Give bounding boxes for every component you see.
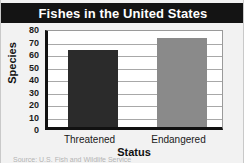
y-tick-label: 0 xyxy=(34,126,39,135)
bar-endangered xyxy=(157,38,207,127)
plot-area xyxy=(45,30,223,130)
y-tick-label: 20 xyxy=(29,101,39,110)
chart-figure: Fishes in the United States Species 0102… xyxy=(0,0,244,163)
bars-layer xyxy=(48,31,222,127)
x-tick-label: Endangered xyxy=(151,134,206,145)
y-axis-ticks: 01020304050607080 xyxy=(1,30,42,130)
chart-title-band: Fishes in the United States xyxy=(1,3,244,23)
y-tick-label: 50 xyxy=(29,63,39,72)
chart-title: Fishes in the United States xyxy=(39,6,208,21)
y-tick-label: 30 xyxy=(29,88,39,97)
y-tick-label: 10 xyxy=(29,113,39,122)
x-tick-label: Threatened xyxy=(64,134,115,145)
y-tick-label: 40 xyxy=(29,76,39,85)
bar-threatened xyxy=(68,50,118,128)
source-note: Source: U.S. Fish and Wildlife Service xyxy=(13,156,131,163)
y-tick-label: 80 xyxy=(29,26,39,35)
y-tick-label: 70 xyxy=(29,38,39,47)
y-tick-label: 60 xyxy=(29,51,39,60)
